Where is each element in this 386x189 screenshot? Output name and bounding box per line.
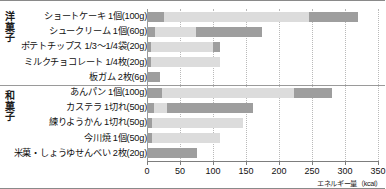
bar [147, 103, 253, 113]
bar-segment [147, 148, 197, 158]
bar-row-label: ポテトチップス 1/3〜1/4袋(20g) [21, 39, 147, 54]
bar-segment [147, 103, 154, 113]
bar-segment [147, 88, 162, 98]
tick-300 [345, 161, 346, 165]
bar-row: 米菓・しょうゆせんべい 2枚(20g) [0, 146, 385, 161]
bar [147, 118, 243, 128]
bar-segment [151, 57, 220, 67]
bar-row: ショートケーキ 1個(100g) [0, 9, 385, 24]
x-axis-line [147, 161, 378, 162]
bar [147, 12, 358, 22]
bar [147, 42, 220, 52]
bar-row: シュークリーム 1個(60g) [0, 24, 385, 39]
tick-200 [279, 161, 280, 165]
bar-row: ミルクチョコレート 1/4枚(20g) [0, 55, 385, 70]
bar [147, 57, 220, 67]
tick-150 [246, 161, 247, 165]
bar-row: カステラ 1切れ(50g) [0, 100, 385, 115]
bar-row: 練りようかん 1切れ(50g) [0, 115, 385, 130]
bar-row-label: 板ガム 2枚(6g) [89, 70, 147, 85]
bar-segment [196, 27, 262, 37]
bar-segment [155, 27, 197, 37]
bar-segment [152, 133, 219, 143]
bar-row: あんパン 1個(100g) [0, 85, 385, 100]
tick-label-100: 100 [205, 166, 220, 176]
bar-row-label: 米菓・しょうゆせんべい 2枚(20g) [14, 146, 147, 161]
bar-row: ポテトチップス 1/3〜1/4袋(20g) [0, 39, 385, 54]
bar-segment [147, 27, 155, 37]
bar-segment [309, 12, 359, 22]
bar-segment [147, 12, 164, 22]
bar-segment [147, 72, 160, 82]
tick-label-300: 300 [337, 166, 352, 176]
bar-row-label: 今川焼 1個(50g) [84, 131, 147, 146]
bar-row-label: ショートケーキ 1個(100g) [44, 9, 147, 24]
tick-label-0: 0 [144, 166, 149, 176]
bar [147, 27, 262, 37]
tick-50 [180, 161, 181, 165]
bar [147, 133, 220, 143]
tick-label-150: 150 [238, 166, 253, 176]
bar-segment [151, 42, 213, 52]
bar-segment [164, 12, 309, 22]
bar-row-label: あんパン 1個(100g) [70, 85, 147, 100]
bar [147, 148, 197, 158]
bar-segment [213, 42, 220, 52]
tick-350 [378, 161, 379, 165]
bar-row: 板ガム 2枚(6g) [0, 70, 385, 85]
tick-label-50: 50 [175, 166, 185, 176]
bar-segment [162, 88, 294, 98]
tick-0 [147, 161, 148, 165]
bar-row-label: カステラ 1切れ(50g) [66, 100, 147, 115]
tick-label-350: 350 [370, 166, 385, 176]
tick-100 [213, 161, 214, 165]
tick-250 [312, 161, 313, 165]
bar-segment [154, 103, 167, 113]
tick-label-250: 250 [304, 166, 319, 176]
bar-row-label: ミルクチョコレート 1/4枚(20g) [24, 55, 147, 70]
tick-label-200: 200 [271, 166, 286, 176]
bar-row-label: シュークリーム 1個(60g) [49, 24, 147, 39]
bar [147, 88, 332, 98]
bar-row: 今川焼 1個(50g) [0, 131, 385, 146]
bar-segment [152, 118, 242, 128]
bar-segment [294, 88, 332, 98]
bar-row-label: 練りようかん 1切れ(50g) [49, 115, 147, 130]
axis-unit-label: エネルギー量（kcal） [317, 178, 382, 188]
bar [147, 72, 160, 82]
bar-segment [167, 103, 253, 113]
